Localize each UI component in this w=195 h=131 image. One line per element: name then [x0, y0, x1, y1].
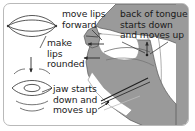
leader-line-lips — [40, 36, 46, 48]
label-make-lips-rounded: make lips rounded — [47, 38, 84, 70]
label-move-lips-forward: move lips forward — [62, 9, 105, 30]
articulation-figure: move lips forward back of tongue starts … — [0, 0, 195, 131]
tongue-anchor-dot — [146, 54, 149, 57]
label-jaw-starts-down: jaw starts down and moves up — [53, 84, 97, 116]
rounded-lips-icon — [12, 69, 52, 111]
label-back-of-tongue: back of tongue starts down and moves up — [120, 9, 187, 41]
jaw-anchor-dot — [107, 101, 109, 103]
open-lips-icon — [7, 16, 57, 37]
arrow-pointer-icon — [98, 103, 108, 109]
